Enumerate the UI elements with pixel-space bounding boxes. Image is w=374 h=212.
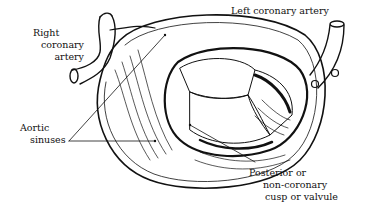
label-line: Aortic: [20, 122, 66, 134]
label-line: artery: [33, 51, 84, 63]
label-line: non-coronary: [249, 179, 338, 191]
aortic-sinuses-label: Aortic sinuses: [20, 122, 66, 146]
posterior-cusp-label: Posterior or non-coronary cusp or valvul…: [249, 167, 338, 203]
label-line: Right: [33, 27, 84, 39]
anatomical-diagram: Right coronary artery Left coronary arte…: [0, 0, 374, 212]
label-line: coronary: [33, 39, 84, 51]
left-coronary-artery-label: Left coronary artery: [231, 5, 329, 17]
right-coronary-artery-label: Right coronary artery: [33, 27, 84, 63]
label-line: Posterior or: [249, 167, 338, 179]
label-line: sinuses: [20, 134, 66, 146]
label-line: Left coronary artery: [231, 5, 329, 17]
label-line: cusp or valvule: [249, 191, 338, 203]
